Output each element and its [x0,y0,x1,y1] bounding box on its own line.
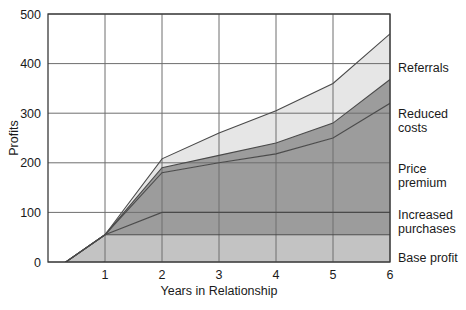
legend-label-reduced-costs-line2: costs [398,121,427,135]
x-tick-label-2: 2 [159,268,166,282]
x-tick-label-5: 5 [330,268,337,282]
legend-label-increased-purchases: Increased [398,208,453,222]
y-tick-label-500: 500 [20,8,41,22]
profit-growth-area-chart: 0100200300400500 123456 Years in Relatio… [0,0,466,310]
legend-label-increased-purchases-line2: purchases [398,222,456,236]
y-tick-label-200: 200 [20,156,41,170]
y-axis-title: Profits [7,120,21,155]
band-line-baseline-wedge [48,262,105,274]
x-tick-label-4: 4 [273,268,280,282]
chart-svg: 0100200300400500 123456 Years in Relatio… [0,0,466,310]
y-tick-label-100: 100 [20,206,41,220]
x-axis-tick-labels: 123456 [102,268,394,282]
x-tick-label-6: 6 [387,268,394,282]
y-tick-label-0: 0 [34,256,41,270]
x-tick-label-3: 3 [216,268,223,282]
x-axis-title: Years in Relationship [161,284,278,298]
y-axis-tick-labels: 0100200300400500 [20,8,41,270]
legend-group: ReferralsReducedcostsPricepremiumIncreas… [398,61,458,265]
y-tick-label-300: 300 [20,107,41,121]
legend-label-reduced-costs: Reduced [398,107,448,121]
legend-label-base-profit: Base profit [398,251,458,265]
x-tick-label-1: 1 [102,268,109,282]
legend-label-price-premium: Price [398,162,427,176]
legend-label-price-premium-line2: premium [398,176,447,190]
legend-label-referrals: Referrals [398,61,449,75]
y-tick-label-400: 400 [20,57,41,71]
